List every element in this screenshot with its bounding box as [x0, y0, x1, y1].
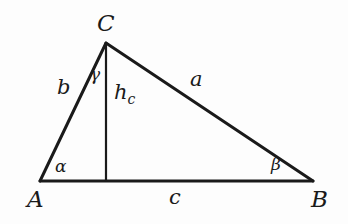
altitude-label-hc: hc	[114, 82, 135, 106]
side-a-line	[106, 43, 313, 181]
angle-label-gamma: γ	[90, 66, 100, 83]
side-label-b: b	[57, 77, 70, 98]
angle-label-beta: β	[271, 156, 281, 173]
side-label-c: c	[169, 187, 181, 208]
altitude-label-subscript: c	[128, 91, 136, 107]
altitude-label-base: h	[114, 80, 128, 104]
angle-label-alpha: α	[55, 158, 66, 175]
vertex-label-b: B	[311, 188, 328, 211]
side-label-a: a	[190, 69, 203, 90]
vertex-label-c: C	[97, 12, 115, 35]
vertex-label-a: A	[27, 188, 44, 211]
geometry-figure: C A B b a c hc α β γ	[0, 0, 348, 224]
